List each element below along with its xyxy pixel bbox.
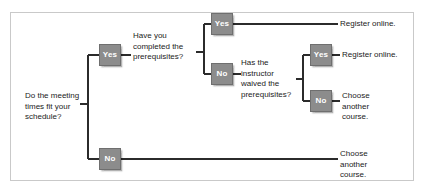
decision-root-no[interactable]: No	[99, 148, 121, 170]
outcome-register-online-waiver: Register online.	[342, 50, 420, 61]
outcome-choose-another-course-waiver: Choose another course.	[342, 91, 402, 123]
flowchart-canvas: Do the meeting times fit your schedule? …	[0, 0, 426, 193]
decision-waiver-yes[interactable]: Yes	[310, 44, 332, 66]
decision-prerequisites-no[interactable]: No	[211, 63, 233, 85]
decision-root-yes[interactable]: Yes	[99, 44, 121, 66]
outcome-register-online-top: Register online.	[340, 19, 418, 30]
outcome-choose-another-course-root: Choose another course.	[340, 149, 400, 181]
question-meeting-times: Do the meeting times fit your schedule?	[25, 91, 101, 123]
question-instructor-waiver: Has the instructor waived the prerequisi…	[241, 58, 301, 100]
question-prerequisites: Have you completed the prerequisites?	[133, 31, 201, 63]
decision-prerequisites-yes[interactable]: Yes	[211, 13, 233, 35]
decision-waiver-no[interactable]: No	[310, 90, 332, 112]
